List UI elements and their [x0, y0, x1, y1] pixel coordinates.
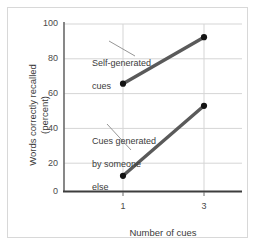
annotation-self-generated-line2: cues [92, 81, 151, 93]
chart-frame: 100 80 60 40 20 0 1 3 Words correctly re… [7, 7, 248, 238]
x-tick-label-3: 3 [191, 201, 217, 211]
annotation-other-generated-line3: else [92, 182, 156, 194]
y-axis-title-line2: (percent) [39, 35, 51, 195]
figure: 100 80 60 40 20 0 1 3 Words correctly re… [0, 0, 256, 246]
annotation-other-generated-line2: by someone [92, 159, 156, 171]
annotation-other-generated-cues: Cues generated by someone else [92, 124, 156, 205]
y-tick-label-100: 100 [32, 18, 58, 28]
x-axis-title: Number of cues [68, 227, 256, 238]
annotation-self-generated-line1: Self-generated [92, 58, 151, 70]
y-axis-title: Words correctly recalled (percent) [27, 35, 51, 195]
annotation-other-generated-line1: Cues generated [92, 136, 156, 148]
y-axis-title-line1: Words correctly recalled [27, 35, 39, 195]
annotation-self-generated-cues: Self-generated cues [92, 46, 151, 104]
